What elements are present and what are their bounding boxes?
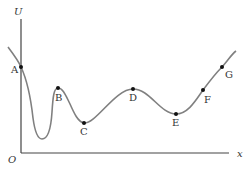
point-d-marker [131,87,135,91]
point-b-label: B [55,92,62,103]
point-c-label: C [80,126,88,137]
point-f-marker [201,88,205,92]
y-axis-label: U [14,6,23,17]
potential-curve [8,47,236,139]
point-g-label: G [225,69,233,80]
point-a-label: A [10,64,19,75]
x-axis-label: x [237,148,243,159]
point-d-label: D [129,92,137,103]
point-c-marker [82,121,86,125]
origin-label: O [8,154,16,165]
point-g-marker [220,65,224,69]
point-b-marker [56,86,60,90]
point-e-marker [174,112,178,116]
point-e-label: E [172,117,179,128]
point-f-label: F [204,94,211,105]
point-a-marker [19,65,23,69]
potential-energy-diagram: U x O A B C D E F G [0,0,249,170]
